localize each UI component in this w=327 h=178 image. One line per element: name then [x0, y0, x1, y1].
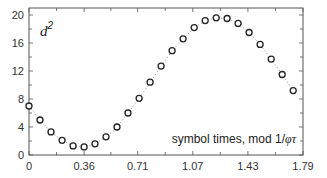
data-point-marker: [191, 25, 197, 31]
y-axis-label: d2: [40, 20, 54, 39]
data-point-marker: [114, 124, 120, 130]
x-tick-label: 1.07: [182, 160, 203, 172]
data-point-marker: [125, 110, 131, 116]
data-point-marker: [59, 137, 65, 143]
data-point-marker: [70, 143, 76, 149]
y-tick-label: 8: [18, 93, 24, 105]
data-point-marker: [37, 117, 43, 123]
data-point-marker: [169, 48, 175, 54]
chart: 00.360.711.071.431.79 048121620 d2 symbo…: [0, 0, 327, 178]
data-point-marker: [158, 63, 164, 69]
data-point-marker: [202, 18, 208, 24]
x-tick-label: 0.36: [73, 160, 94, 172]
x-axis-ticks: 00.360.711.071.431.79: [26, 8, 314, 172]
y-tick-label: 12: [12, 65, 24, 77]
data-point-marker: [48, 129, 54, 135]
y-tick-label: 4: [18, 121, 24, 133]
x-tick-label: 1.79: [292, 160, 313, 172]
data-point-marker: [81, 144, 87, 150]
data-point-marker: [92, 141, 98, 147]
data-point-marker: [213, 15, 219, 21]
data-point-marker: [279, 72, 285, 78]
y-tick-label: 16: [12, 37, 24, 49]
x-tick-label: 1.43: [237, 160, 258, 172]
data-point-marker: [268, 56, 274, 62]
x-annotation: symbol times, mod 1/φτ: [172, 132, 297, 146]
y-tick-label: 0: [18, 149, 24, 161]
data-point-marker: [26, 103, 32, 109]
data-point-marker: [147, 79, 153, 85]
y-tick-label: 20: [12, 9, 24, 21]
data-point-marker: [103, 134, 109, 140]
data-point-marker: [180, 36, 186, 42]
x-tick-label: 0.71: [127, 160, 148, 172]
series-dotted-line: [29, 18, 293, 147]
series-markers: [26, 15, 296, 150]
x-tick-label: 0: [26, 160, 32, 172]
data-point-marker: [235, 20, 241, 26]
data-point-marker: [257, 41, 263, 47]
data-point-marker: [290, 88, 296, 94]
data-point-marker: [224, 16, 230, 22]
data-point-marker: [246, 30, 252, 36]
data-point-marker: [136, 95, 142, 101]
